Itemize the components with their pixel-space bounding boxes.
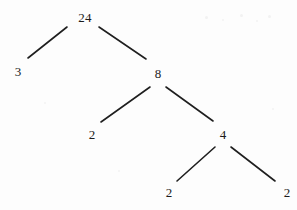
tree-edge — [28, 27, 67, 58]
tree-edge — [231, 147, 275, 181]
tree-edge — [101, 87, 150, 122]
tree-node-n8: 8 — [155, 67, 162, 80]
tree-edge — [99, 27, 146, 59]
tree-node-n3: 3 — [15, 65, 22, 78]
tree-node-n4: 4 — [220, 128, 227, 141]
tree-edges-layer — [0, 0, 297, 210]
tree-node-n2b: 2 — [166, 186, 173, 199]
tree-node-root: 24 — [78, 11, 91, 24]
tree-edge — [166, 87, 213, 121]
tree-node-n2a: 2 — [89, 128, 96, 141]
edge-group — [28, 27, 275, 181]
tree-edge — [177, 147, 215, 181]
tree-node-n2c: 2 — [284, 186, 291, 199]
factor-tree-diagram: 24382422 — [0, 0, 297, 210]
